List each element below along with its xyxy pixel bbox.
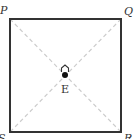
center-label-e: E <box>61 83 69 96</box>
square-diagram: P Q R S E <box>0 0 135 139</box>
house-icon <box>62 65 69 72</box>
vertex-label-q: Q <box>124 5 133 18</box>
vertex-label-r: R <box>123 132 132 139</box>
vertex-label-p: P <box>0 4 8 17</box>
center-point <box>62 72 68 78</box>
vertex-label-s: S <box>0 132 6 139</box>
